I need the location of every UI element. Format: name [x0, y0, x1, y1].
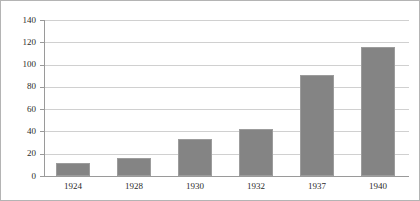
bar-chart-figure: 140 120 100 80 60 40 20 0 1924 1928 1930…	[0, 0, 420, 201]
x-tick-label-1928: 1928	[125, 182, 143, 191]
x-tick-label-1937: 1937	[308, 182, 326, 191]
x-tick-label-1932: 1932	[247, 182, 265, 191]
x-tick-label-1940: 1940	[369, 182, 387, 191]
x-axis-tick-labels: 1924 1928 1930 1932 1937 1940	[1, 1, 419, 200]
x-tick-label-1930: 1930	[186, 182, 204, 191]
x-tick-label-1924: 1924	[64, 182, 82, 191]
